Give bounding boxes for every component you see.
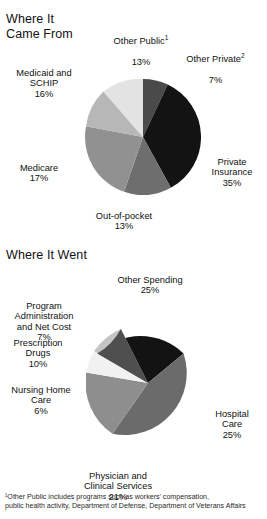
pie-label-nursing-home-care-name: Nursing Home Care [11, 385, 70, 406]
pie-label-program-administration-value: 7% [2, 332, 86, 343]
footnotes: ¹Other Public includes programs such as … [5, 493, 263, 511]
pie-label-program-administration: Program Administration and Net Cost 7% [2, 290, 86, 354]
pie-label-medicare-value: 17% [2, 173, 76, 184]
pie-label-other-private-name: Other Private [186, 54, 241, 64]
pie-label-nursing-home-care-value: 6% [1, 406, 81, 417]
footnote-marker-1: 1 [165, 34, 169, 41]
pie-label-medicaid-schip-value: 16% [2, 89, 86, 100]
pie-label-physician-clinical-services-name: Physician and Clinical Services [84, 471, 152, 492]
pie-label-nursing-home-care: Nursing Home Care 6% [1, 374, 81, 427]
pie-label-other-spending-name: Other Spending [117, 275, 182, 285]
pie-chart-where-it-came-from [85, 79, 201, 195]
pie-label-out-of-pocket-name: Out-of-pocket [96, 211, 152, 221]
pie-label-other-private: Other Private2 7% [166, 43, 265, 85]
pie-label-private-insurance-value: 35% [199, 178, 265, 189]
pie-label-other-private-value: 7% [209, 75, 222, 85]
pie-label-program-administration-name: Program Administration and Net Cost [15, 301, 74, 332]
page-title-where-it-went: Where It Went [6, 248, 87, 263]
pie-label-other-spending-value: 25% [104, 285, 196, 296]
pie-label-hospital-care-value: 25% [201, 430, 263, 441]
pie-label-medicare: Medicare 17% [2, 152, 76, 194]
pie-chart-where-it-went [86, 321, 210, 445]
pie-label-prescription-drugs-value: 10% [1, 359, 75, 370]
pie-label-hospital-care: Hospital Care 25% [201, 398, 263, 451]
pie-label-hospital-care-name: Hospital Care [215, 409, 249, 430]
page-title-came-from: Where It Came From [6, 12, 73, 41]
footnote-marker-2: 2 [241, 52, 245, 59]
pie-label-out-of-pocket: Out-of-pocket 13% [78, 200, 170, 242]
pie-label-medicaid-schip: Medicaid and SCHIP 16% [2, 57, 86, 110]
pie-label-private-insurance-name: Private Insurance [212, 157, 253, 178]
pie-label-medicare-name: Medicare [20, 163, 58, 173]
pie-label-medicaid-schip-name: Medicaid and SCHIP [16, 68, 71, 89]
pie-label-other-public-value: 13% [132, 57, 151, 67]
pie-label-private-insurance: Private Insurance 35% [199, 146, 265, 199]
pie-label-other-spending: Other Spending 25% [104, 264, 196, 306]
pie-label-out-of-pocket-value: 13% [78, 221, 170, 232]
pie-label-other-public-name: Other Public [114, 36, 165, 46]
footnote-1: ¹Other Public includes programs such as … [5, 493, 263, 511]
